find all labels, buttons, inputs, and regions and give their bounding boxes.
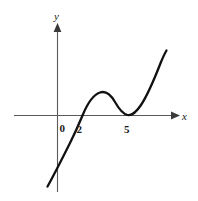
origin-tick-label: 0 [60, 122, 66, 134]
x-axis-arrowhead [171, 112, 180, 120]
y-axis-arrowhead [54, 23, 62, 32]
x-axis-label: x [181, 110, 187, 122]
graph-figure: 0 2 5 x y [0, 0, 198, 201]
graph-canvas: 0 2 5 x y [0, 0, 198, 201]
curve-group [48, 51, 167, 187]
x-tick-label-5: 5 [124, 123, 130, 135]
function-curve [48, 51, 167, 187]
y-axis-label: y [53, 10, 59, 22]
x-axis-group [14, 112, 180, 120]
x-tick-label-2: 2 [77, 123, 83, 135]
